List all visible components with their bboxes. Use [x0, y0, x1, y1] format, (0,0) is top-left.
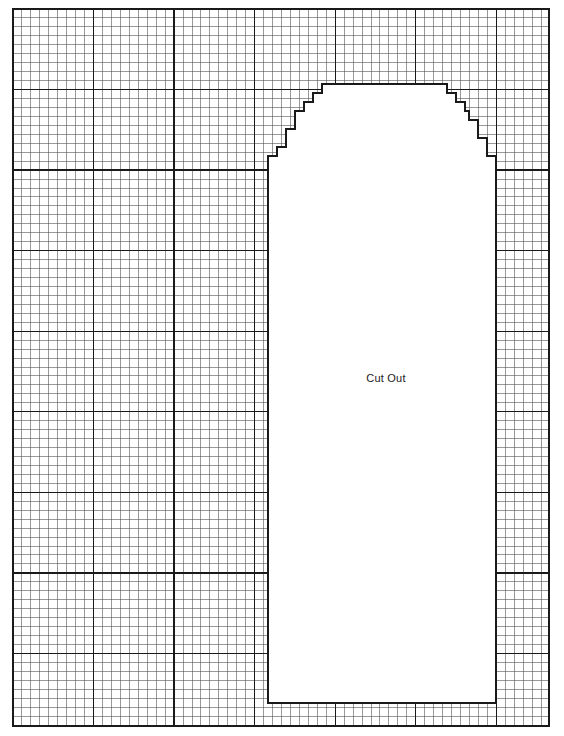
page-root: Cut Out	[0, 0, 564, 736]
cut-out-outline	[268, 84, 496, 703]
grid-sheet-canvas	[0, 0, 564, 736]
cut-out-label: Cut Out	[366, 372, 405, 384]
